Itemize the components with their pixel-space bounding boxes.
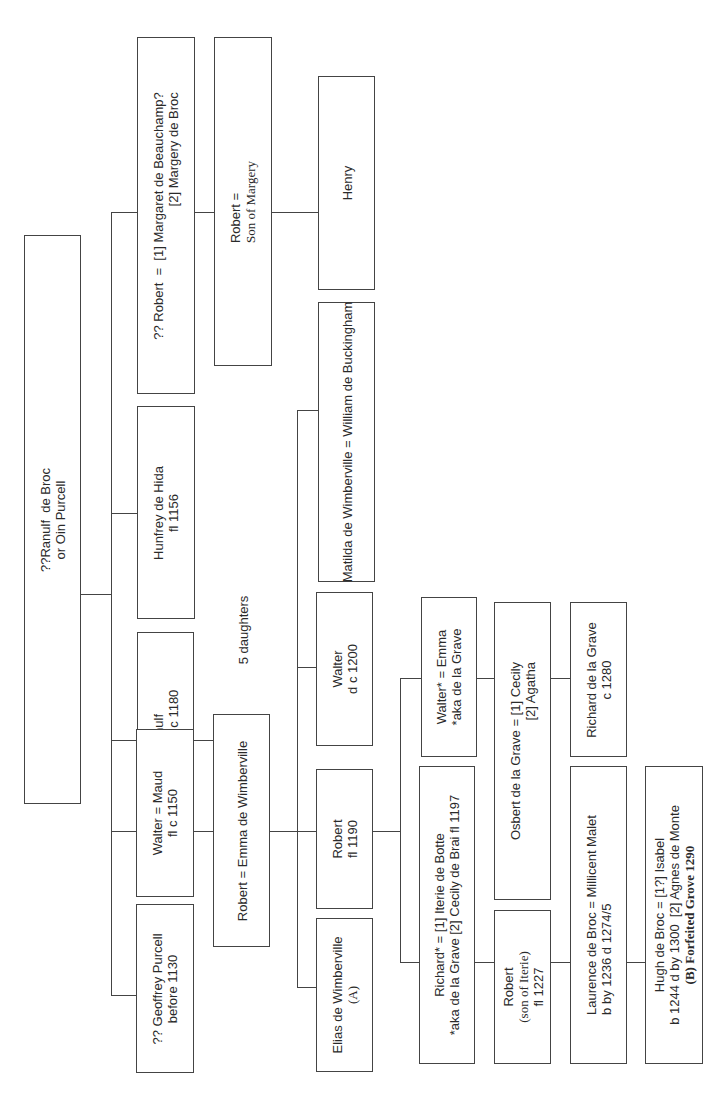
connector-line [297,667,316,668]
connector-line [297,410,318,411]
connector-line [297,831,316,832]
node-name: Walter [330,644,345,694]
node-richard-de-la-grave-senior: Richard* = [1] Iterie de Botte*aka de la… [419,766,475,1064]
connector-line [270,831,297,832]
node-robert-son-of-margery: Robert =Son of Margery [214,37,272,366]
node-name: Richard de la Grave [584,622,599,738]
node-name: Richard* = [1] Iterie de Botte [432,795,447,1035]
connector-line [272,212,318,213]
node-name: Hunfrey de Hida [151,466,166,560]
node-detail: d c 1200 [345,644,360,694]
connector-line [400,678,421,679]
node-robert-fl-1190: Robertfl 1190 [316,769,373,909]
node-detail: or Oin Purcell [53,467,68,571]
node-henry: Henry [318,76,375,290]
connector-line [400,678,401,963]
node-name: Hugh de Broc = [1?] Isabel [652,805,667,1025]
connector-line [400,962,419,963]
node-name: ??Ranulf de Broc [38,467,53,571]
node-name: Matilda de Wimberville = William de Buck… [339,302,354,583]
node-name: ?? Robert = [1] Margaret de Beauchamp? [151,92,166,340]
connector-line [551,962,570,963]
connector-line [81,594,112,595]
connector-line [111,212,112,996]
connector-line [297,410,298,988]
connector-line [372,831,400,832]
node-hugh-de-broc: Hugh de Broc = [1?] Isabelb 1244 d by 13… [645,766,703,1064]
node-name: Elias de Wimberville [330,936,345,1053]
connector-line [111,740,137,741]
connector-line [297,987,316,988]
node-name: Robert = Emma de Wimberville [234,740,249,920]
connector-line [194,831,213,832]
node-name: Walter* = Emma [434,629,449,726]
node-walter-maud: Walter = Maudfl c 1150 [136,729,194,897]
connector-line [194,740,213,741]
node-walter-d-1200: Walterd c 1200 [316,592,373,746]
node-detail: *aka de la Grave [2] Cecily de Brai fl 1… [447,795,462,1035]
five-daughters-label: 5 daughters [236,596,251,665]
node-name: ?? Geoffrey Purcell [150,933,165,1044]
node-robert-emma-wimberville: Robert = Emma de Wimberville [213,714,270,947]
node-name: Laurence de Broc = Millicent Malet [584,815,599,1015]
node-robert-son-of-iterie: Robert(son of Iterie)fl 1227 [494,910,551,1064]
connector-line [195,212,214,213]
connector-line [477,678,494,679]
connector-line [551,678,570,679]
connector-line [111,513,137,514]
node-name: Osbert de la Grave = [1] Cecily [508,662,523,840]
node-detail: fl 1190 [345,819,360,858]
connector-line [111,831,137,832]
node-detail: fl 1156 [166,466,181,560]
node-name: Robert [330,819,345,858]
connector-line [111,212,137,213]
node-walter-emma: Walter* = Emma*aka de la Grave [421,597,477,757]
node-detail: before 1130 [165,933,180,1044]
node-hunfrey-de-hida: Hunfrey de Hidafl 1156 [137,406,195,619]
node-detail: b by 1236 d 1274/5 [599,815,614,1015]
node-robert-questioned: ?? Robert = [1] Margaret de Beauchamp?[2… [137,37,195,394]
node-detail: [2] Agatha [523,662,538,840]
node-geoffrey-purcell: ?? Geoffrey Purcellbefore 1130 [136,904,194,1073]
node-detail: [2] Margery de Broc [166,92,181,340]
connector-line [627,962,645,963]
node-name: Robert = [228,160,243,242]
node-detail: c 1280 [599,622,614,738]
node-matilda-de-wimberville: Matilda de Wimberville = William de Buck… [318,302,375,582]
node-detail: fl c 1150 [165,771,180,855]
node-name: Robert [500,951,515,1022]
node-richard-de-la-grave-c1280: Richard de la Gravec 1280 [570,602,627,757]
node-root-ranulf: ??Ranulf de Brocor Oin Purcell [24,235,81,804]
connector-line [111,995,137,996]
node-laurence-de-broc: Laurence de Broc = Millicent Maletb by 1… [570,766,627,1064]
node-detail: (son of Iterie) [515,951,530,1022]
node-name: Walter = Maud [150,771,165,855]
node-date: fl 1227 [530,951,545,1022]
node-detail: b 1244 d by 1300 [2] Agnes de Monte [667,805,682,1025]
node-detail: *aka de la Grave [449,629,464,726]
node-osbert-de-la-grave: Osbert de la Grave = [1] Cecily[2] Agath… [494,602,551,900]
node-name: Henry [339,166,354,201]
connector-line [475,962,494,963]
node-note: (B) Forfeited Grove 1290 [682,805,697,1025]
node-detail: (A) [345,936,360,1053]
node-detail: Son of Margery [243,160,258,242]
node-elias-de-wimberville: Elias de Wimberville(A) [316,918,373,1072]
